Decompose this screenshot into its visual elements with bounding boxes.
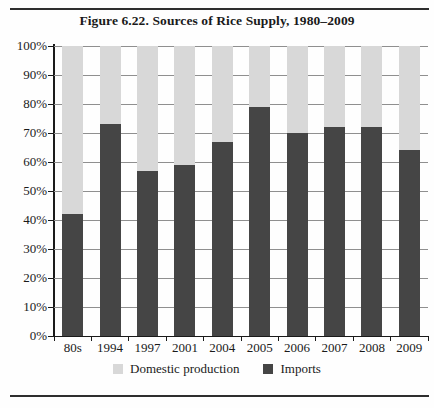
y-axis-tick-80 bbox=[48, 104, 53, 105]
legend-swatch-imports bbox=[263, 364, 273, 374]
x-axis-label-2005: 2005 bbox=[241, 340, 278, 355]
bar-imports-segment-2001 bbox=[174, 165, 195, 336]
bar-group-2009 bbox=[399, 46, 420, 336]
plot-area bbox=[54, 46, 428, 336]
top-rule bbox=[10, 8, 429, 10]
x-axis-label-2001: 2001 bbox=[166, 340, 203, 355]
bar-imports-segment-2004 bbox=[212, 142, 233, 336]
bar-group-1994 bbox=[100, 46, 121, 336]
y-axis-label-40: 40% bbox=[0, 213, 47, 227]
x-axis-label-1997: 1997 bbox=[129, 340, 166, 355]
y-axis-label-70: 70% bbox=[0, 126, 47, 140]
bar-group-2001 bbox=[174, 46, 195, 336]
bar-imports-segment-2007 bbox=[324, 127, 345, 336]
bar-group-2008 bbox=[361, 46, 382, 336]
y-axis-label-30: 30% bbox=[0, 242, 47, 256]
bar-domestic-segment-2005 bbox=[249, 46, 270, 107]
bar-domestic-segment-2008 bbox=[361, 46, 382, 127]
y-axis-tick-60 bbox=[48, 162, 53, 163]
x-axis-label-2006: 2006 bbox=[278, 340, 315, 355]
bar-imports-segment-2005 bbox=[249, 107, 270, 336]
y-axis-tick-0 bbox=[48, 336, 53, 337]
y-axis-tick-40 bbox=[48, 220, 53, 221]
bar-imports-segment-2009 bbox=[399, 150, 420, 336]
x-axis-label-80s: 80s bbox=[54, 340, 91, 355]
legend-label-domestic-production: Domestic production bbox=[130, 361, 239, 377]
y-axis-label-90: 90% bbox=[0, 68, 47, 82]
bar-domestic-segment-2004 bbox=[212, 46, 233, 142]
y-axis-label-0: 0% bbox=[0, 329, 47, 343]
x-axis-label-2009: 2009 bbox=[391, 340, 428, 355]
legend-swatch-domestic-production bbox=[113, 364, 123, 374]
figure-title: Figure 6.22. Sources of Rice Supply, 198… bbox=[0, 13, 434, 29]
bar-group-80s bbox=[62, 46, 83, 336]
bar-domestic-segment-2007 bbox=[324, 46, 345, 127]
y-axis-label-50: 50% bbox=[0, 184, 47, 198]
y-axis-tick-90 bbox=[48, 75, 53, 76]
x-axis-label-1994: 1994 bbox=[91, 340, 128, 355]
figure-container: Figure 6.22. Sources of Rice Supply, 198… bbox=[0, 0, 434, 408]
y-axis-tick-30 bbox=[48, 249, 53, 250]
bar-group-2006 bbox=[287, 46, 308, 336]
y-axis-tick-70 bbox=[48, 133, 53, 134]
y-axis-tick-10 bbox=[48, 307, 53, 308]
bar-domestic-segment-80s bbox=[62, 46, 83, 214]
y-axis-label-10: 10% bbox=[0, 300, 47, 314]
bar-domestic-segment-1994 bbox=[100, 46, 121, 124]
legend: Domestic production Imports bbox=[0, 360, 434, 378]
bar-group-1997 bbox=[137, 46, 158, 336]
y-axis-tick-100 bbox=[48, 46, 53, 47]
bar-group-2004 bbox=[212, 46, 233, 336]
bar-domestic-segment-2009 bbox=[399, 46, 420, 150]
bar-group-2007 bbox=[324, 46, 345, 336]
x-axis-label-2007: 2007 bbox=[316, 340, 353, 355]
y-axis-label-80: 80% bbox=[0, 97, 47, 111]
bar-imports-segment-80s bbox=[62, 214, 83, 336]
y-axis-tick-20 bbox=[48, 278, 53, 279]
bottom-rule bbox=[10, 395, 429, 397]
bar-imports-segment-2008 bbox=[361, 127, 382, 336]
x-axis-label-2008: 2008 bbox=[353, 340, 390, 355]
bar-group-2005 bbox=[249, 46, 270, 336]
legend-label-imports: Imports bbox=[280, 361, 320, 377]
y-axis-tick-50 bbox=[48, 191, 53, 192]
bar-imports-segment-1994 bbox=[100, 124, 121, 336]
y-axis-label-100: 100% bbox=[0, 39, 47, 53]
y-axis-label-60: 60% bbox=[0, 155, 47, 169]
bar-domestic-segment-1997 bbox=[137, 46, 158, 171]
bar-imports-segment-2006 bbox=[287, 133, 308, 336]
bar-domestic-segment-2006 bbox=[287, 46, 308, 133]
y-axis-label-20: 20% bbox=[0, 271, 47, 285]
bar-domestic-segment-2001 bbox=[174, 46, 195, 165]
x-axis-label-2004: 2004 bbox=[204, 340, 241, 355]
bar-imports-segment-1997 bbox=[137, 171, 158, 336]
